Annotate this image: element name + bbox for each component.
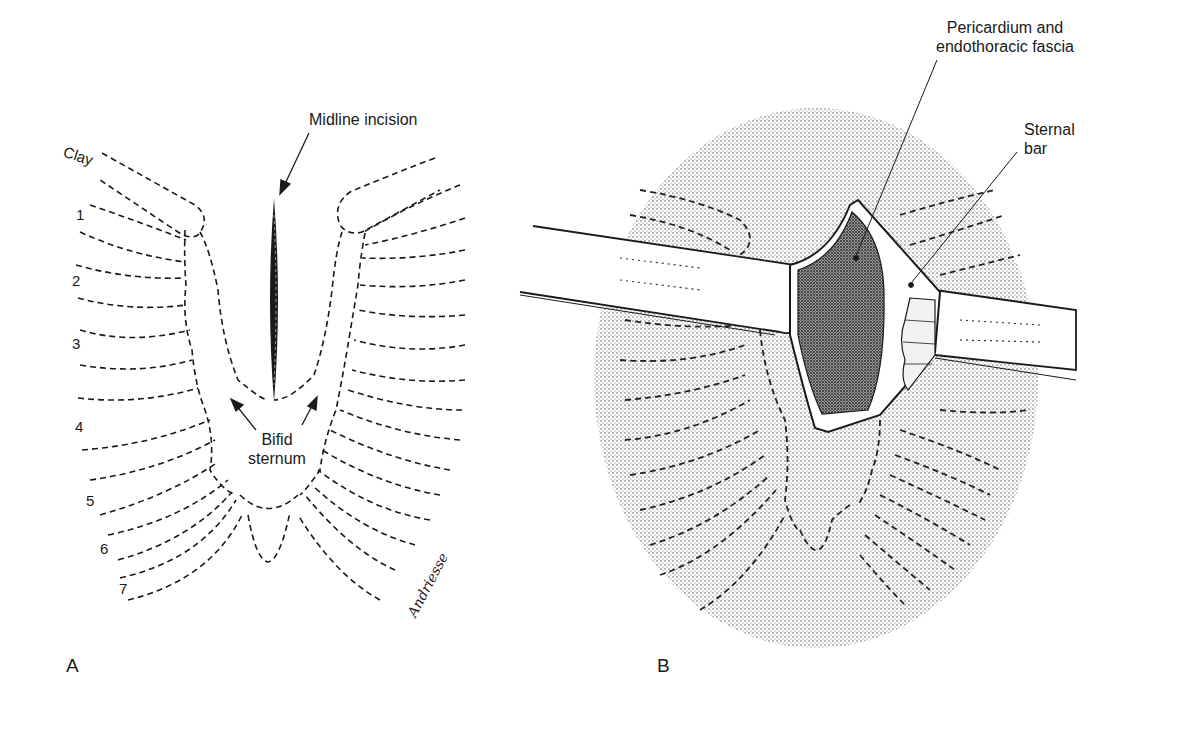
- panel-a-drawing: [76, 153, 465, 600]
- bifid-sternum-label: Bifid sternum: [238, 430, 316, 468]
- bifid-sternum-line1: Bifid: [238, 430, 316, 449]
- rib-number-7: 7: [119, 580, 127, 597]
- rib-number-4: 4: [75, 418, 83, 435]
- sternal-bar-line2: bar: [1024, 139, 1075, 158]
- rib-number-2: 2: [72, 272, 80, 289]
- midline-incision-shape: [270, 198, 278, 402]
- pericardium-line2: endothoracic fascia: [925, 37, 1085, 56]
- sternal-bar-line1: Sternal: [1024, 120, 1075, 139]
- anatomical-illustration: [0, 0, 1186, 733]
- panel-b-drawing: [520, 108, 1076, 648]
- panel-a-letter: A: [66, 655, 79, 677]
- pericardium-label: Pericardium and endothoracic fascia: [925, 18, 1085, 56]
- pericardium-line1: Pericardium and: [925, 18, 1085, 37]
- rib-number-3: 3: [72, 335, 80, 352]
- rib-number-6: 6: [100, 540, 108, 557]
- sternal-bar-label: Sternal bar: [1024, 120, 1075, 158]
- rib-number-5: 5: [86, 492, 94, 509]
- panel-b-letter: B: [657, 655, 670, 677]
- midline-incision-label: Midline incision: [309, 110, 418, 129]
- rib-number-1: 1: [76, 206, 84, 223]
- bifid-sternum-line2: sternum: [238, 449, 316, 468]
